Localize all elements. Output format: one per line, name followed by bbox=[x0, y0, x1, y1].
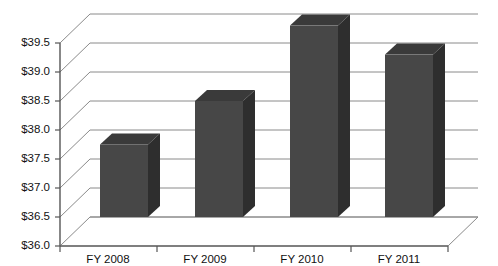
depth-line-38-0 bbox=[60, 130, 90, 159]
bar-front-face bbox=[290, 26, 338, 217]
bar-side-face bbox=[338, 15, 350, 217]
floor-right-edge bbox=[448, 217, 478, 246]
bar-front-face bbox=[385, 55, 433, 217]
bar-side-face bbox=[433, 44, 445, 217]
y-tick-marks-group bbox=[55, 43, 60, 246]
depth-line-39-5 bbox=[60, 43, 90, 72]
depth-connectors-group bbox=[60, 14, 90, 217]
depth-line-top bbox=[60, 14, 90, 43]
depth-line-39-0 bbox=[60, 72, 90, 101]
y-axis-label-38-5: $38.5 bbox=[21, 94, 50, 106]
x-axis-category-label: FY 2011 bbox=[378, 253, 420, 265]
floor-left-edge bbox=[60, 217, 90, 246]
x-tick-marks-group bbox=[60, 246, 448, 252]
y-axis-labels-group: $39.5 $39.0 $38.5 $38.0 $37.5 $37.0 $36.… bbox=[21, 36, 50, 251]
bar-column bbox=[290, 15, 350, 217]
bar-front-face bbox=[100, 145, 148, 218]
x-axis-category-label: FY 2009 bbox=[183, 253, 226, 265]
chart-canvas: $39.5 $39.0 $38.5 $38.0 $37.5 $37.0 $36.… bbox=[0, 0, 498, 266]
bar-column bbox=[100, 134, 160, 218]
y-axis-label-36-0: $36.0 bbox=[21, 239, 50, 251]
x-axis-category-label: FY 2010 bbox=[280, 253, 323, 265]
y-axis-label-36-5: $36.5 bbox=[21, 210, 50, 222]
y-axis-label-39-5: $39.5 bbox=[21, 36, 50, 48]
depth-line-37-0 bbox=[60, 188, 90, 217]
bar-side-face bbox=[243, 90, 255, 217]
bar-column bbox=[385, 44, 445, 217]
y-axis-label-39-0: $39.0 bbox=[21, 65, 50, 77]
x-axis-labels-group: FY 2008FY 2009FY 2010FY 2011 bbox=[86, 253, 420, 265]
y-axis-label-38-0: $38.0 bbox=[21, 123, 50, 135]
depth-line-37-5 bbox=[60, 159, 90, 188]
bar-front-face bbox=[195, 101, 243, 217]
bars-group bbox=[100, 15, 445, 217]
y-axis-label-37-5: $37.5 bbox=[21, 152, 50, 164]
bar-column bbox=[195, 90, 255, 217]
depth-line-38-5 bbox=[60, 101, 90, 130]
y-axis-label-37-0: $37.0 bbox=[21, 181, 50, 193]
floor-plane-group bbox=[60, 217, 478, 246]
bar-chart-figure: $39.5 $39.0 $38.5 $38.0 $37.5 $37.0 $36.… bbox=[0, 0, 498, 266]
x-axis-category-label: FY 2008 bbox=[86, 253, 129, 265]
bar-side-face bbox=[148, 134, 160, 218]
